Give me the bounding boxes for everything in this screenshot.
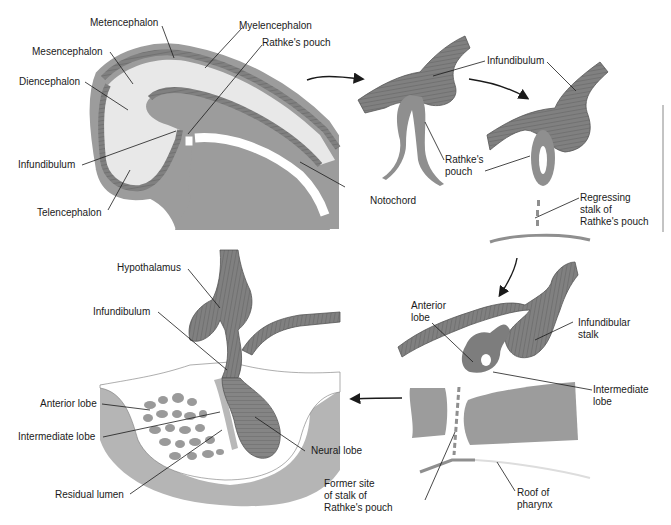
arrow-2-to-3 bbox=[469, 79, 527, 98]
panel-1-embryo-head bbox=[89, 42, 340, 230]
label-former-site: Former site of stalk of Rathke's pouch bbox=[324, 478, 393, 514]
label-neural-lobe: Neural lobe bbox=[311, 445, 362, 457]
label-intermediate-lobe-p5: Intermediate lobe bbox=[18, 431, 95, 443]
label-hypothalamus: Hypothalamus bbox=[117, 262, 181, 274]
arrow-4-to-5 bbox=[352, 398, 402, 399]
label-telencephalon: Telencephalon bbox=[37, 207, 102, 219]
label-regressing-stalk: Regressing stalk of Rathke's pouch bbox=[580, 192, 649, 228]
label-infundibulum-p5: Infundibulum bbox=[93, 306, 150, 318]
label-mesencephalon: Mesencephalon bbox=[32, 46, 103, 58]
panel-5-mature-pituitary bbox=[100, 250, 340, 506]
label-intermediate-lobe-p4: Intermediate lobe bbox=[593, 384, 649, 408]
label-roof-of-pharynx: Roof of pharynx bbox=[517, 487, 553, 511]
panel-4-lobes-forming bbox=[398, 262, 590, 478]
arrow-1-to-2 bbox=[307, 77, 362, 81]
label-infundibular-stalk: Infundibular stalk bbox=[578, 317, 630, 341]
label-infundibulum-p2: Infundibulum bbox=[487, 55, 544, 67]
label-anterior-lobe-p5: Anterior lobe bbox=[40, 398, 97, 410]
label-metencephalon: Metencephalon bbox=[90, 17, 158, 29]
label-notochord: Notochord bbox=[370, 195, 416, 207]
label-myelencephalon: Myelencephalon bbox=[239, 20, 312, 32]
pituitary-development-diagram: Metencephalon Myelencephalon Rathke's po… bbox=[0, 0, 671, 525]
label-rathkes-pouch-p1: Rathke's pouch bbox=[262, 37, 331, 49]
arrow-3-to-4 bbox=[500, 258, 517, 295]
label-anterior-lobe-p4: Anterior lobe bbox=[411, 300, 446, 324]
label-residual-lumen: Residual lumen bbox=[55, 489, 124, 501]
label-rathkes-pouch-p2: Rathke's pouch bbox=[445, 154, 484, 178]
label-diencephalon: Diencephalon bbox=[19, 76, 80, 88]
label-infundibulum-p1: Infundibulum bbox=[18, 159, 75, 171]
